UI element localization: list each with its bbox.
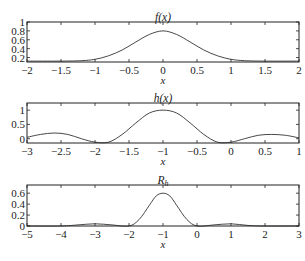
chart-figure: −2−1.5−1−0.500.511.520.20.40.60.81f(x)x−… [0,0,305,261]
subplot-title: f(x) [155,11,171,24]
x-axis-label: x [160,238,166,250]
x-tick-label: 2 [262,228,268,240]
x-axis-label: x [160,74,166,86]
x-tick-label: −1.5 [51,64,71,76]
x-axis-label: x [160,155,166,167]
y-tick-label: 0 [20,133,26,145]
axes-box [27,185,299,226]
x-tick-label: −0.5 [187,145,207,157]
x-tick-label: 1 [296,145,302,157]
x-tick-label: 1 [228,64,234,76]
data-line [27,31,299,61]
x-tick-label: 3 [296,228,302,240]
y-tick-label: 0.2 [11,209,25,221]
y-tick-label: 0.6 [11,187,25,199]
y-tick-label: 1 [20,16,26,28]
x-tick-label: −2 [21,64,33,76]
y-tick-label: 0.4 [11,198,25,210]
axes-box [27,22,299,62]
axes-box [27,103,299,143]
subplot-3: −5−4−3−2−1012300.20.40.6Rhx [11,174,302,250]
x-tick-label: 0.5 [258,145,272,157]
x-tick-label: −4 [55,228,67,240]
x-tick-label: 0 [228,145,234,157]
y-tick-label: 0.5 [11,118,25,130]
y-tick-label: 0 [20,220,26,232]
x-tick-label: −2 [89,145,101,157]
subplot-1: −2−1.5−1−0.500.511.520.20.40.60.81f(x)x [11,11,302,86]
data-line [27,110,299,143]
x-tick-label: 0 [194,228,200,240]
x-tick-label: 2 [296,64,302,76]
subplot-title: h(x) [154,92,173,105]
x-tick-label: −1 [89,64,101,76]
x-tick-label: −3 [21,145,33,157]
x-tick-label: 1.5 [258,64,272,76]
subplot-2: −3−2.5−2−1.5−1−0.500.5100.51h(x)x [11,92,302,167]
x-tick-label: −2 [123,228,135,240]
x-tick-label: −2.5 [51,145,71,157]
x-tick-label: −1.5 [119,145,139,157]
data-line [27,193,299,226]
x-tick-label: −3 [89,228,101,240]
y-tick-label: 1 [20,104,26,116]
x-tick-label: 0.5 [190,64,204,76]
x-tick-label: 1 [228,228,234,240]
subplot-title: Rh [156,174,168,188]
x-tick-label: −0.5 [119,64,139,76]
